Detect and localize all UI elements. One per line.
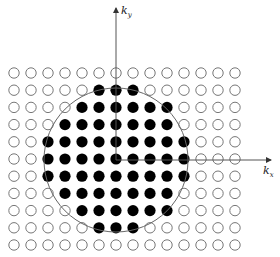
empty-state-dot <box>230 223 240 233</box>
empty-state-dot <box>77 85 87 95</box>
empty-state-dot <box>162 240 172 250</box>
empty-state-dot <box>26 240 36 250</box>
empty-state-dot <box>9 188 19 198</box>
occupied-state-dot <box>76 136 87 147</box>
empty-state-dot <box>43 240 53 250</box>
empty-state-dot <box>179 240 189 250</box>
empty-state-dot <box>230 171 240 181</box>
occupied-state-dot <box>144 153 155 164</box>
empty-state-dot <box>43 188 53 198</box>
empty-state-dot <box>213 171 223 181</box>
empty-state-dot <box>9 205 19 215</box>
empty-state-dot <box>145 223 155 233</box>
empty-state-dot <box>213 223 223 233</box>
empty-state-dot <box>9 223 19 233</box>
empty-state-dot <box>9 154 19 164</box>
occupied-state-dot <box>127 136 138 147</box>
empty-state-dot <box>9 171 19 181</box>
empty-state-dot <box>230 240 240 250</box>
occupied-state-dot <box>93 119 104 130</box>
occupied-state-dot <box>161 119 172 130</box>
empty-state-dot <box>9 102 19 112</box>
empty-state-dot <box>162 223 172 233</box>
empty-state-dot <box>26 119 36 129</box>
occupied-state-dot <box>161 171 172 182</box>
empty-state-dot <box>43 68 53 78</box>
empty-state-dot <box>94 240 104 250</box>
occupied-state-dot <box>144 136 155 147</box>
occupied-state-dot <box>144 205 155 216</box>
empty-state-dot <box>94 68 104 78</box>
empty-state-dot <box>26 171 36 181</box>
occupied-state-dot <box>59 136 70 147</box>
empty-state-dot <box>43 85 53 95</box>
empty-state-dot <box>196 154 206 164</box>
empty-state-dot <box>128 240 138 250</box>
occupied-state-dot <box>93 222 104 233</box>
occupied-state-dot <box>76 188 87 199</box>
empty-state-dot <box>60 85 70 95</box>
empty-state-dot <box>43 223 53 233</box>
occupied-state-dot <box>144 171 155 182</box>
empty-state-dot <box>196 102 206 112</box>
occupied-state-dot <box>127 222 138 233</box>
occupied-state-dot <box>42 171 53 182</box>
empty-state-dot <box>196 205 206 215</box>
empty-state-dot <box>213 85 223 95</box>
occupied-state-dot <box>161 102 172 113</box>
empty-state-dot <box>179 102 189 112</box>
empty-state-dot <box>196 137 206 147</box>
empty-state-dot <box>196 119 206 129</box>
empty-state-dot <box>230 68 240 78</box>
empty-state-dot <box>60 223 70 233</box>
empty-state-dot <box>9 240 19 250</box>
empty-state-dot <box>230 154 240 164</box>
empty-state-dot <box>26 137 36 147</box>
empty-state-dot <box>26 85 36 95</box>
empty-state-dot <box>213 205 223 215</box>
empty-state-dot <box>26 188 36 198</box>
empty-state-dot <box>196 188 206 198</box>
empty-state-dot <box>179 223 189 233</box>
empty-state-dot <box>9 119 19 129</box>
empty-state-dot <box>77 223 87 233</box>
occupied-state-dot <box>161 188 172 199</box>
occupied-state-dot <box>178 171 189 182</box>
empty-state-dot <box>213 119 223 129</box>
empty-state-dot <box>60 240 70 250</box>
empty-state-dot <box>196 223 206 233</box>
occupied-state-dot <box>59 171 70 182</box>
occupied-state-dot <box>161 153 172 164</box>
empty-state-dot <box>77 240 87 250</box>
empty-state-dot <box>145 68 155 78</box>
empty-state-dot <box>77 68 87 78</box>
kx-axis-label: kx <box>263 164 274 179</box>
empty-state-dot <box>60 68 70 78</box>
empty-state-dot <box>179 188 189 198</box>
empty-state-dot <box>43 205 53 215</box>
empty-state-dot <box>230 205 240 215</box>
empty-state-dot <box>43 102 53 112</box>
empty-state-dot <box>9 68 19 78</box>
occupied-state-dot <box>93 188 104 199</box>
empty-state-dot <box>26 68 36 78</box>
occupied-state-dot <box>93 205 104 216</box>
empty-state-dot <box>196 85 206 95</box>
empty-state-dot <box>162 68 172 78</box>
empty-state-dot <box>230 119 240 129</box>
occupied-state-dot <box>110 205 121 216</box>
occupied-state-dot <box>144 119 155 130</box>
diagram-canvas: kx ky <box>0 0 280 257</box>
empty-state-dot <box>9 137 19 147</box>
empty-state-dot <box>128 68 138 78</box>
empty-state-dot <box>196 240 206 250</box>
occupied-state-dot <box>110 188 121 199</box>
occupied-state-dot <box>127 205 138 216</box>
empty-state-dot <box>213 188 223 198</box>
k-space-diagram: kx ky <box>0 0 280 257</box>
empty-state-dot <box>196 68 206 78</box>
empty-state-dot <box>26 102 36 112</box>
empty-state-dot <box>230 137 240 147</box>
empty-state-dot <box>145 240 155 250</box>
occupied-state-dot <box>59 188 70 199</box>
